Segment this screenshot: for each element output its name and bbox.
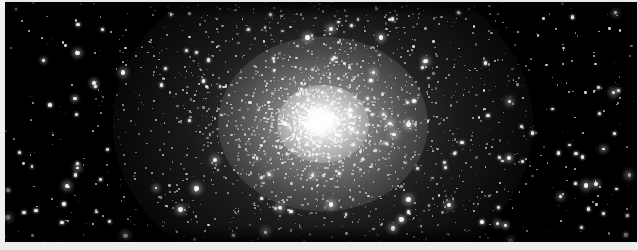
star: [574, 117, 576, 119]
star: [602, 212, 605, 215]
star: [22, 162, 24, 164]
star: [207, 58, 210, 61]
star: [350, 24, 353, 27]
star: [279, 99, 280, 100]
star: [533, 113, 534, 114]
star: [613, 132, 616, 135]
star: [329, 137, 330, 138]
star: [98, 89, 99, 90]
star: [619, 76, 620, 77]
star: [94, 85, 97, 88]
star: [312, 95, 314, 97]
star: [432, 40, 434, 42]
star: [5, 235, 7, 237]
star: [301, 215, 302, 216]
star: [270, 62, 271, 63]
star: [326, 72, 327, 73]
star: [267, 203, 268, 204]
star: [603, 110, 605, 112]
star: [355, 50, 356, 51]
star: [490, 194, 491, 195]
star: [507, 156, 511, 160]
star: [51, 198, 53, 200]
star: [305, 35, 309, 39]
star: [418, 154, 419, 155]
star: [348, 113, 352, 117]
star: [619, 97, 621, 99]
star: [93, 3, 95, 5]
star: [260, 197, 263, 200]
star: [36, 206, 38, 208]
star: [391, 146, 393, 148]
star: [329, 202, 334, 207]
star: [74, 195, 75, 196]
star: [518, 64, 519, 65]
star: [525, 158, 527, 160]
star: [406, 122, 411, 127]
star: [42, 59, 45, 62]
star: [296, 93, 299, 96]
star: [155, 187, 157, 189]
star: [523, 227, 524, 228]
star: [204, 230, 206, 232]
star: [193, 100, 195, 102]
star: [385, 142, 388, 145]
star: [288, 176, 289, 177]
star: [47, 44, 48, 45]
star: [34, 152, 35, 153]
star: [537, 34, 539, 36]
star: [580, 231, 581, 232]
star: [286, 199, 288, 201]
star: [560, 220, 562, 222]
star: [617, 89, 620, 92]
star: [165, 205, 167, 207]
star: [66, 216, 67, 217]
star: [31, 165, 34, 168]
star: [601, 87, 603, 89]
star: [60, 221, 63, 224]
star: [95, 211, 98, 214]
star: [503, 112, 505, 114]
star: [549, 13, 550, 14]
star: [399, 39, 400, 40]
star: [148, 41, 149, 42]
star: [202, 79, 205, 82]
star: [386, 128, 387, 129]
star: [577, 35, 578, 36]
star: [513, 79, 515, 81]
star: [263, 40, 266, 43]
star: [351, 127, 355, 131]
star: [438, 194, 440, 196]
star: [73, 97, 77, 101]
star: [581, 155, 584, 158]
star: [419, 239, 420, 240]
star: [294, 21, 295, 22]
star: [95, 183, 97, 185]
star: [504, 224, 507, 227]
star: [407, 210, 410, 213]
star: [188, 36, 190, 38]
star: [444, 166, 447, 169]
star: [94, 52, 96, 54]
star: [317, 199, 318, 200]
star: [454, 22, 455, 23]
star: [628, 173, 631, 176]
star: [297, 138, 299, 140]
star: [412, 45, 415, 48]
star: [378, 77, 379, 78]
star: [194, 94, 197, 97]
star: [321, 166, 322, 167]
star: [193, 238, 196, 241]
star: [389, 12, 391, 14]
star: [57, 206, 58, 207]
star: [459, 13, 460, 14]
star: [86, 223, 87, 224]
star: [206, 116, 207, 117]
star: [366, 97, 369, 100]
star: [127, 13, 128, 14]
star: [359, 150, 361, 152]
star: [359, 219, 360, 220]
star: [205, 85, 208, 88]
star: [73, 103, 74, 104]
star: [375, 164, 376, 165]
